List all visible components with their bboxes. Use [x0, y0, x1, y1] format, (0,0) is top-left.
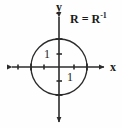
y-axis-tick-label-one: 1 [44, 48, 50, 60]
unit-circle-diagram: y x 1 1 R = R-1 [0, 0, 122, 128]
y-axis-label: y [56, 1, 62, 13]
x-axis-tick-label-one: 1 [67, 71, 73, 83]
equation-exponent: -1 [100, 11, 107, 20]
equation-annotation: R = R-1 [70, 12, 107, 25]
x-axis-label: x [110, 61, 116, 73]
equation-base: R = R [70, 12, 100, 26]
